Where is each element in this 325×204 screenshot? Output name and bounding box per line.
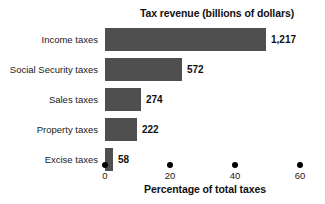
bar-income-taxes: [105, 28, 266, 51]
tick-dot-icon: [232, 162, 238, 168]
category-label: Sales taxes: [0, 88, 98, 111]
bar-row: Income taxes 1,217: [0, 28, 325, 51]
bar-value-label: 274: [146, 88, 163, 111]
chart-title: Tax revenue (billions of dollars): [140, 7, 325, 19]
tick-dot-icon: [102, 162, 108, 168]
category-label: Social Security taxes: [0, 58, 98, 81]
plot-area: Income taxes 1,217 Social Security taxes…: [0, 28, 325, 160]
x-axis-title: Percentage of total taxes: [105, 183, 305, 195]
x-tick-label: 60: [286, 170, 314, 181]
x-tick-label: 20: [156, 170, 184, 181]
bar-row: Property taxes 222: [0, 118, 325, 141]
bar-value-label: 1,217: [271, 28, 296, 51]
bar-row: Sales taxes 274: [0, 88, 325, 111]
x-tick-label: 40: [221, 170, 249, 181]
bar-value-label: 572: [187, 58, 204, 81]
bar-property-taxes: [105, 118, 137, 141]
bar-value-label: 222: [142, 118, 159, 141]
bar-row: Social Security taxes 572: [0, 58, 325, 81]
tick-dot-icon: [167, 162, 173, 168]
bar-sales-taxes: [105, 88, 141, 111]
bar-chart: Tax revenue (billions of dollars) Income…: [0, 0, 325, 204]
tick-dot-icon: [297, 162, 303, 168]
x-axis: 0 20 40 60 Percentage of total taxes: [0, 160, 325, 204]
x-tick-label: 0: [91, 170, 119, 181]
bar-social-security-taxes: [105, 58, 182, 81]
category-label: Property taxes: [0, 118, 98, 141]
category-label: Income taxes: [0, 28, 98, 51]
